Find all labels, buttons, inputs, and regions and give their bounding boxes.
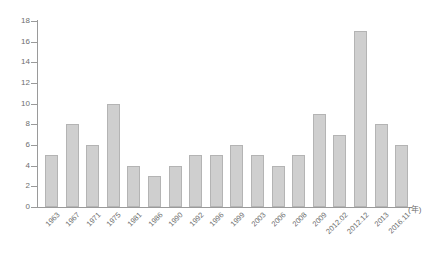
y-axis-tick: [31, 145, 37, 146]
bar-chart: 024681012141618 196319671971197519811986…: [0, 0, 440, 258]
y-axis-tick-label-text: 8: [8, 120, 30, 128]
y-axis-tick-label: 2: [0, 182, 30, 190]
bar: [210, 155, 223, 207]
bar: [107, 104, 120, 207]
y-axis-tick-label-text: 0: [8, 203, 30, 211]
bar: [45, 155, 58, 207]
bar: [354, 31, 367, 207]
y-axis-tick-label-text: 2: [8, 182, 30, 190]
y-axis-tick-label: 4: [0, 162, 30, 170]
x-axis-unit-label: (年): [408, 205, 421, 214]
y-axis-tick-label: 16: [0, 38, 30, 46]
bar: [189, 155, 202, 207]
bar: [251, 155, 264, 207]
bar: [395, 145, 408, 207]
x-axis-tick-label: 1981: [118, 211, 143, 236]
y-axis-tick-label: 6: [0, 141, 30, 149]
bar: [127, 166, 140, 207]
x-axis-tick-label: 1999: [221, 211, 246, 236]
y-axis-tick-label: 0: [0, 203, 30, 211]
y-axis-tick: [31, 186, 37, 187]
x-axis-tick-label: 2012.02: [324, 211, 349, 236]
y-axis-tick-label-text: 10: [8, 100, 30, 108]
y-axis-tick: [31, 42, 37, 43]
bar: [272, 166, 285, 207]
y-axis-tick: [31, 104, 37, 105]
x-axis-line: [37, 207, 412, 208]
bar: [86, 145, 99, 207]
plot-area: [38, 21, 430, 207]
bar: [333, 135, 346, 207]
bar: [148, 176, 161, 207]
y-axis-tick-label: 12: [0, 79, 30, 87]
y-axis-tick: [31, 166, 37, 167]
y-axis-tick-label-text: 18: [8, 17, 30, 25]
bar: [292, 155, 305, 207]
bar: [375, 124, 388, 207]
y-axis-tick-label: 14: [0, 58, 30, 66]
y-axis-tick-label-text: 4: [8, 162, 30, 170]
y-axis-tick: [31, 21, 37, 22]
y-axis-tick-label-text: 6: [8, 141, 30, 149]
y-axis-tick-label: 8: [0, 120, 30, 128]
y-axis-tick-label-text: 16: [8, 38, 30, 46]
y-axis-tick: [31, 83, 37, 84]
y-axis-tick-label: 10: [0, 100, 30, 108]
y-axis-tick-label: 18: [0, 17, 30, 25]
y-axis-tick: [31, 124, 37, 125]
bar: [66, 124, 79, 207]
bar: [230, 145, 243, 207]
y-axis-tick-label-text: 14: [8, 58, 30, 66]
bar: [169, 166, 182, 207]
y-axis-tick: [31, 62, 37, 63]
y-axis-tick-label-text: 12: [8, 79, 30, 87]
bar: [313, 114, 326, 207]
